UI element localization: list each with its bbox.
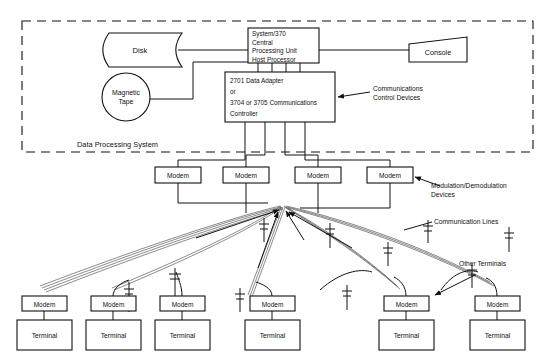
terminal-stack: Modem Terminal [245, 282, 300, 350]
communication-line-bundles [40, 206, 494, 297]
modem-row-item: Modem [295, 167, 341, 183]
terminal-stack-modem-label: Modem [396, 301, 418, 308]
annotation-communications-control-devices: Communications Control Devices [338, 85, 423, 101]
other-terminals-label: Other Terminals [459, 260, 507, 267]
node-magnetic-tape: Magnetic Tape [102, 73, 150, 121]
terminal-stack-modem-label: Modem [172, 301, 194, 308]
controller-line-1: 2701 Data Adapter [230, 77, 284, 85]
terminal-stack-terminal-label: Terminal [394, 332, 420, 339]
modem-row-item: Modem [223, 167, 269, 183]
magnetic-tape-label-line1: Magnetic [112, 89, 141, 97]
telephone-pole-icon [259, 218, 269, 242]
terminal-stack: Modem Terminal [17, 296, 72, 350]
modem-row-label: Modem [167, 172, 189, 179]
cpu-line-1: System/370 [252, 30, 286, 38]
modulation-devices-line1: Modulation/Demodulation [431, 182, 507, 189]
cpu-line-3: Processing Unit [252, 47, 297, 55]
terminal-stack: Modem Terminal [379, 277, 434, 350]
modulation-devices-line2: Devices [431, 191, 455, 198]
modem-row-drop-legs [178, 183, 390, 213]
console-label: Console [425, 48, 451, 57]
controller-to-modem-links [178, 122, 390, 167]
magnetic-tape-label-line2: Tape [119, 98, 134, 106]
terminal-stack-modem-label: Modem [262, 301, 284, 308]
modem-row-item: Modem [155, 167, 201, 183]
annotation-communication-lines: Communication Lines [404, 218, 499, 230]
terminal-stack-terminal-label: Terminal [170, 332, 196, 339]
terminal-stack-modem-label: Modem [34, 301, 56, 308]
node-cpu: System/370 Central Processing Unit Host … [248, 28, 319, 63]
telephone-pole-icon [383, 242, 393, 266]
annotation-modulation-devices: Modulation/Demodulation Devices [415, 177, 507, 198]
modem-row-label: Modem [307, 172, 329, 179]
data-communications-diagram: Data Processing System Disk Magnetic Tap… [0, 0, 559, 364]
cpu-line-4: Host Processor [252, 56, 297, 63]
enclosure-label: Data Processing System [77, 140, 158, 149]
modem-row-label: Modem [379, 172, 401, 179]
disk-label: Disk [133, 46, 148, 55]
telephone-pole-icon [342, 285, 352, 310]
controller-line-3: 3704 or 3705 Communications [230, 99, 317, 106]
node-disk: Disk [103, 33, 182, 67]
modem-row-label: Modem [235, 172, 257, 179]
terminal-stack-terminal-label: Terminal [485, 332, 511, 339]
controller-line-2: or [230, 88, 237, 95]
terminal-stack-modem-label: Modem [487, 301, 509, 308]
terminal-stack-modem-label: Modem [103, 301, 125, 308]
terminal-stack: Modem Terminal [86, 280, 141, 350]
modem-row: Modem Modem Modem Modem [155, 167, 413, 183]
terminal-stack-terminal-label: Terminal [32, 332, 58, 339]
terminal-stack-terminal-label: Terminal [101, 332, 127, 339]
comm-control-devices-line2: Control Devices [373, 94, 421, 101]
cpu-line-2: Central [252, 39, 273, 46]
node-communications-controller: 2701 Data Adapter or 3704 or 3705 Commun… [225, 72, 335, 122]
modem-row-item: Modem [367, 167, 413, 183]
controller-line-4: Controller [230, 110, 259, 117]
telephone-pole-icon [504, 227, 514, 252]
node-console: Console [409, 37, 467, 62]
terminal-stack-terminal-label: Terminal [260, 332, 286, 339]
terminal-stack: Modem Terminal [155, 272, 210, 350]
telephone-pole-icon [423, 220, 433, 243]
terminal-stack: Modem Terminal [470, 278, 525, 350]
telephone-pole-icon [235, 288, 245, 312]
telephone-pole-icon [325, 223, 335, 248]
communication-lines-label: Communication Lines [434, 218, 499, 225]
comm-control-devices-line1: Communications [373, 85, 423, 92]
